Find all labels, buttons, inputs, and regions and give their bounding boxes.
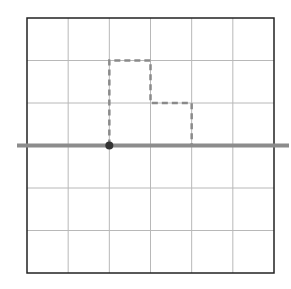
grid-diagram [0,0,291,289]
point-marker [105,142,113,150]
